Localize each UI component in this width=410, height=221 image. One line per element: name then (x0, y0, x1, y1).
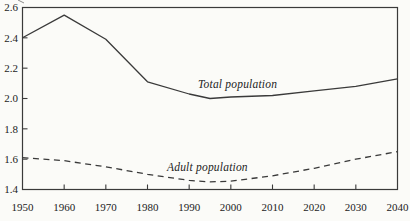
series-label-adult-population: Adult population (167, 161, 248, 173)
y-tick-label: 2.4 (4, 32, 18, 44)
y-tick-label: 2.2 (4, 62, 18, 74)
x-tick-label: 2010 (262, 201, 285, 213)
x-tick-label: 1980 (137, 201, 160, 213)
y-tick-label: 1.6 (4, 153, 18, 165)
x-tick-label: 1970 (95, 201, 118, 213)
y-tick-label: 1.4 (4, 183, 18, 195)
cropped-text-artifact (18, 0, 24, 3)
y-tick-label: 1.8 (4, 123, 18, 135)
y-tick-label: 2.6 (4, 1, 18, 13)
x-tick-label: 1990 (178, 201, 201, 213)
x-tick-label: 2040 (387, 201, 410, 213)
y-tick-label: 2.0 (4, 92, 18, 104)
x-tick-label: 2000 (220, 201, 243, 213)
series-label-total-population: Total population (198, 78, 277, 90)
chart-canvas: 1.41.61.82.02.22.42.61950196019701980199… (0, 0, 410, 221)
population-line-chart: 1.41.61.82.02.22.42.61950196019701980199… (0, 0, 410, 221)
x-tick-label: 2020 (303, 201, 326, 213)
x-tick-label: 1960 (53, 201, 76, 213)
x-tick-label: 2030 (345, 201, 368, 213)
x-tick-label: 1950 (12, 201, 35, 213)
